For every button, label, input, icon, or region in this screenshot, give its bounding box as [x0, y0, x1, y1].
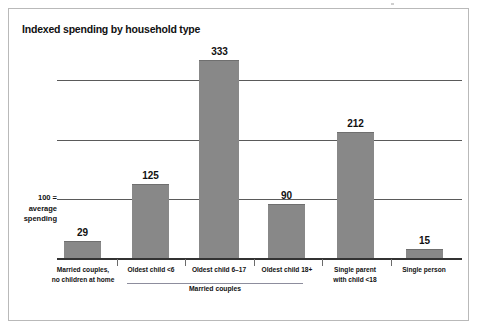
category-label-6: Single person [389, 265, 459, 275]
category-label-5-line2: with child <18 [320, 275, 390, 285]
group-bracket [127, 283, 303, 284]
bar-value-2: 125 [125, 170, 176, 181]
category-label-5: Single parent with child <18 [320, 265, 390, 284]
chart-card: Indexed spending by household type 100 =… [8, 8, 469, 321]
y-axis-note-line3: spending [15, 214, 57, 225]
scan-artifact [391, 3, 394, 5]
y-axis-note: 100 = average spending [15, 193, 57, 225]
bar-oldest-child-under-6[interactable] [132, 184, 169, 258]
bar-value-3: 333 [194, 46, 245, 57]
bar-value-5: 212 [330, 118, 381, 129]
group-label-married-couples: Married couples [127, 285, 303, 292]
y-axis-note-line2: average [15, 204, 57, 215]
y-axis-note-line1: 100 = [15, 193, 57, 204]
category-label-1-line1: Married couples, [48, 265, 118, 275]
bar-single-person[interactable] [406, 249, 443, 258]
bar-value-6: 15 [399, 235, 450, 246]
gridline-300 [57, 80, 462, 81]
bar-single-parent[interactable] [337, 132, 374, 258]
bar-value-4: 90 [261, 190, 312, 201]
category-label-3-line1: Oldest child 6–17 [184, 265, 254, 275]
category-label-1: Married couples, no children at home [48, 265, 118, 284]
bar-oldest-child-6-17[interactable] [199, 60, 239, 258]
category-label-2: Oldest child <6 [116, 265, 186, 275]
category-label-1-line2: no children at home [48, 275, 118, 285]
bar-value-1: 29 [57, 227, 108, 238]
category-label-6-line1: Single person [389, 265, 459, 275]
category-label-4: Oldest child 18+ [252, 265, 322, 275]
category-label-5-line1: Single parent [320, 265, 390, 275]
bar-married-no-children[interactable] [64, 241, 101, 258]
category-label-3: Oldest child 6–17 [184, 265, 254, 275]
gridline-100 [57, 199, 462, 200]
category-label-2-line1: Oldest child <6 [116, 265, 186, 275]
bar-oldest-child-18-plus[interactable] [268, 204, 305, 258]
gridline-200 [57, 140, 462, 141]
plot-area: 100 = average spending 29 125 333 90 212… [9, 9, 470, 322]
category-label-4-line1: Oldest child 18+ [252, 265, 322, 275]
